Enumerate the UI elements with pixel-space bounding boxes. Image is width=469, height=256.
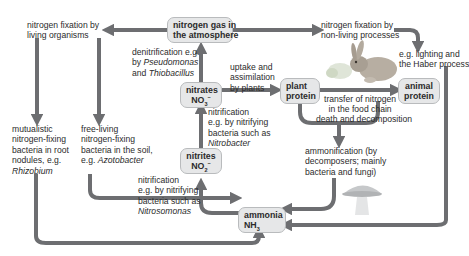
label-fixation-living: nitrogen fixation by living organisms xyxy=(27,20,99,41)
label-transfer: transfer of nitrogen in the food chain xyxy=(324,94,396,115)
rabbit-illustration xyxy=(326,40,397,83)
node-ammonia: ammonia NH3 xyxy=(238,207,286,233)
label-uptake: uptake and assimilation by plants xyxy=(230,62,275,93)
label-fixation-nonliving: nitrogen fixation by non-living processe… xyxy=(321,20,399,41)
label-death-decomposition: death and decomposition xyxy=(316,114,412,124)
arrow-ammonification-to-ammonia xyxy=(286,178,334,209)
label-free-living: free-living nitrogen-fixing bacteria in … xyxy=(81,124,153,166)
node-nitrogen-gas: nitrogen gas in the atmosphere xyxy=(167,17,233,43)
label-mutualistic: mutualistic nitrogen-fixing bacteria in … xyxy=(12,124,69,176)
nitrites-formula: NO2− xyxy=(186,161,216,171)
label-nitrification-nitrobacter: nitrification e.g. by nitrifying bacteri… xyxy=(208,107,271,149)
node-nitrites: nitrites NO2− xyxy=(180,148,222,174)
node-nitrates: nitrates NO3− xyxy=(180,82,222,108)
label-lighting-haber: e.g. lighting and the Haber process xyxy=(399,49,469,70)
mushroom-illustration xyxy=(342,186,382,216)
node-plant-protein: plant protein xyxy=(280,78,320,104)
label-ammonification: ammonification (by decomposers; mainly b… xyxy=(305,146,386,177)
ammonia-formula: NH3 xyxy=(244,220,280,230)
label-nitrification-nitrosomonas: nitrification e.g. by nitrifying bacteri… xyxy=(138,175,201,217)
node-animal-protein: animal protein xyxy=(398,78,440,104)
label-denitrification: denitrification e.g. by Pseudomonas and … xyxy=(132,47,199,78)
nitrates-formula: NO3− xyxy=(186,95,216,105)
